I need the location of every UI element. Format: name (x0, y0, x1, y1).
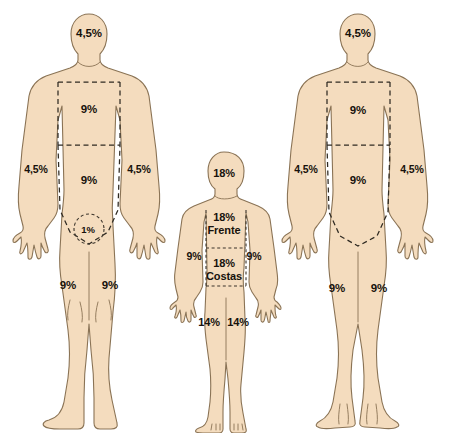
adult-back-silhouette (282, 14, 433, 429)
adult-front-right-leg-label: 9% (102, 279, 118, 292)
adult-back-left-arm-label: 4,5% (294, 164, 318, 176)
adult-front-left-leg-label: 9% (60, 279, 76, 292)
child-silhouette (170, 152, 281, 433)
child-front-label: 18%Frente (207, 211, 240, 237)
child-back-label: 18%Costas (206, 257, 242, 283)
child-right-leg-label: 14% (227, 316, 249, 328)
adult-front-right-arm-label: 4,5% (127, 164, 151, 176)
adult-back-upper-back-label: 9% (350, 104, 366, 117)
child-left-leg-label: 14% (198, 316, 220, 328)
child-head-label: 18% (213, 167, 235, 179)
adult-front-head-label: 4,5% (76, 27, 102, 40)
adult-front-chest-label: 9% (81, 103, 97, 116)
rule-of-nines-diagram: 4,5% 9% 9% 4,5% 4,5% 1% 9% 9% 18% 18%Fre… (0, 0, 449, 433)
adult-back-lower-back-label: 9% (350, 174, 366, 187)
adult-back-right-arm-label: 4,5% (400, 164, 424, 176)
adult-back-right-leg-label: 9% (371, 282, 387, 295)
child-right-arm-label: 9% (247, 251, 262, 263)
adult-front-left-arm-label: 4,5% (24, 164, 48, 176)
adult-back-head-label: 4,5% (345, 27, 371, 40)
child-left-arm-label: 9% (187, 251, 202, 263)
adult-back-left-leg-label: 9% (329, 282, 345, 295)
adult-front-abdomen-label: 9% (81, 174, 97, 187)
adult-front-genital-label: 1% (81, 225, 95, 236)
adult-front-silhouette (13, 14, 165, 429)
